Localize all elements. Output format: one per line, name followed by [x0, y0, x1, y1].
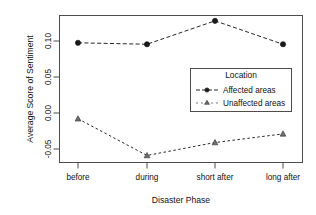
- triangle-data-marker: [280, 131, 286, 136]
- y-axis-tick-labels: 0.10 0.05 0.00 -0.05: [44, 33, 53, 159]
- series-line: [78, 119, 283, 156]
- circle-data-marker: [75, 40, 80, 45]
- x-tick-label: short after: [197, 173, 234, 182]
- legend: Location Affected areas Unaffected areas: [191, 69, 292, 112]
- y-axis-title: Average Score of Sentiment: [25, 35, 35, 143]
- legend-entry-label: Affected areas: [223, 86, 276, 95]
- circle-data-marker: [212, 18, 217, 23]
- triangle-data-marker: [212, 140, 218, 145]
- line-chart-canvas: 0.10 0.05 0.00 -0.05 Average Score of Se…: [0, 0, 316, 215]
- circle-marker-icon: [205, 88, 209, 92]
- legend-entry-label: Unaffected areas: [223, 99, 285, 108]
- y-tick-label: 0.10: [44, 33, 53, 49]
- chart-figure: 0.10 0.05 0.00 -0.05 Average Score of Se…: [0, 0, 316, 215]
- x-axis-title: Disaster Phase: [152, 195, 210, 205]
- series-line: [78, 21, 283, 44]
- triangle-data-marker: [75, 116, 81, 121]
- legend-title: Location: [225, 70, 257, 80]
- x-tick-label: during: [136, 173, 159, 182]
- y-tick-label: -0.05: [44, 139, 53, 158]
- y-tick-label: 0.00: [44, 105, 53, 121]
- y-axis-ticks: [54, 41, 60, 149]
- series-affected-areas: [75, 18, 285, 47]
- x-tick-label: before: [66, 173, 90, 182]
- x-axis-ticks: [78, 163, 283, 169]
- y-tick-label: 0.05: [44, 69, 53, 85]
- x-tick-label: long after: [266, 173, 300, 182]
- circle-data-marker: [144, 42, 149, 47]
- series-unaffected-areas: [75, 116, 286, 158]
- x-axis-tick-labels: before during short after long after: [66, 173, 300, 182]
- circle-data-marker: [280, 42, 285, 47]
